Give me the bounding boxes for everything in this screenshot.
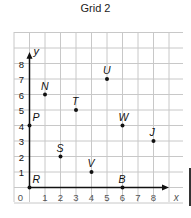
point-n xyxy=(43,93,47,97)
point-s xyxy=(59,155,63,159)
y-tick-label: 8 xyxy=(19,59,24,70)
point-label-w: W xyxy=(119,111,130,123)
point-w xyxy=(121,124,125,128)
x-tick-label: 7 xyxy=(135,192,140,203)
y-axis-label: y xyxy=(33,45,41,57)
x-tick-label: 8 xyxy=(151,192,156,203)
point-t xyxy=(74,108,78,112)
x-axis-label: x xyxy=(173,192,180,203)
y-tick-label: 3 xyxy=(19,136,24,147)
x-tick-label: 5 xyxy=(104,192,109,203)
y-tick-label: 6 xyxy=(19,90,24,101)
point-j xyxy=(152,139,156,143)
point-label-s: S xyxy=(57,142,64,154)
point-label-j: J xyxy=(149,126,156,138)
point-label-v: V xyxy=(88,157,96,169)
point-label-t: T xyxy=(72,95,80,107)
point-label-b: B xyxy=(119,173,126,185)
point-label-r: R xyxy=(33,173,41,185)
point-v xyxy=(90,170,94,174)
edge-bar xyxy=(189,168,191,206)
y-tick-label: 4 xyxy=(19,121,24,132)
y-tick-label: 2 xyxy=(19,152,24,163)
x-tick-label: 3 xyxy=(73,192,78,203)
point-r xyxy=(28,186,32,190)
x-tick-label: 4 xyxy=(89,192,94,203)
point-label-n: N xyxy=(41,80,49,92)
y-tick-label: 1 xyxy=(19,167,24,178)
y-tick-label: 7 xyxy=(19,74,24,85)
x-axis-arrow-icon xyxy=(162,185,169,191)
y-axis-arrow-icon xyxy=(27,52,33,59)
coordinate-grid: yx01234567812345678NUTPWJSVRB xyxy=(0,0,191,218)
point-label-u: U xyxy=(103,64,111,76)
point-label-p: P xyxy=(33,111,40,123)
x-tick-label: 1 xyxy=(42,192,47,203)
y-tick-label: 5 xyxy=(19,105,24,116)
x-tick-label: 0 xyxy=(18,192,23,203)
x-tick-label: 2 xyxy=(58,192,63,203)
x-tick-label: 6 xyxy=(120,192,125,203)
point-b xyxy=(121,186,125,190)
point-p xyxy=(28,124,32,128)
point-u xyxy=(105,77,109,81)
